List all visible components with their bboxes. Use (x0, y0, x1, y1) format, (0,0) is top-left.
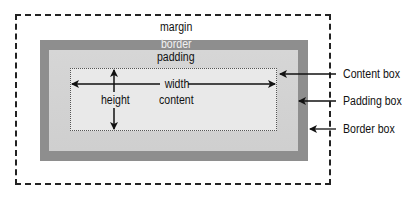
padding-box-callout-label: Padding box (343, 94, 402, 108)
content-box-callout-label: Content box (343, 67, 400, 81)
border-box-callout-label: Border box (343, 122, 395, 136)
